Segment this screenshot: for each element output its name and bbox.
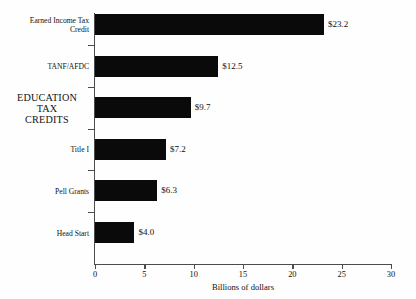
bar-row: Head Start$4.0 [0,222,416,264]
bar-row: Title I$7.2 [0,139,416,181]
x-axis-tick-label: 15 [228,270,258,279]
x-axis-tick [95,264,96,269]
y-axis-tick [88,212,94,213]
bar-value-label: $4.0 [138,222,154,243]
x-axis-tick-label: 25 [327,270,357,279]
x-axis-title: Billions of dollars [95,282,391,292]
x-axis-tick [342,264,343,269]
x-axis-tick-label: 5 [129,270,159,279]
x-axis-tick-label: 10 [179,270,209,279]
x-axis-tick [391,264,392,269]
bar-value-label: $23.2 [328,14,348,35]
bar [95,222,134,243]
category-label: TANF/AFDC [3,62,89,72]
bar [95,139,166,160]
bar [95,97,191,118]
y-axis-tick [88,87,94,88]
category-label: Head Start [3,229,89,239]
bar-value-label: $9.7 [195,97,211,118]
x-axis-tick [292,264,293,269]
bar [95,14,324,35]
bar-row: Pell Grants$6.3 [0,180,416,222]
x-axis-tick-label: 0 [80,270,110,279]
bar-chart: Earned Income Tax Credit$23.2TANF/AFDC$1… [0,0,416,299]
bar [95,180,157,201]
category-label: Title I [3,145,89,155]
x-axis-tick [243,264,244,269]
category-label: EDUCATION TAX CREDITS [1,92,93,126]
y-axis-tick [88,129,94,130]
y-axis-tick [88,170,94,171]
bar-value-label: $6.3 [161,180,177,201]
x-axis-tick [144,264,145,269]
bar [95,56,218,77]
bar-row: Earned Income Tax Credit$23.2 [0,14,416,56]
y-axis-tick [88,45,94,46]
x-axis-tick-label: 30 [376,270,406,279]
x-axis-tick-label: 20 [277,270,307,279]
bar-row: EDUCATION TAX CREDITS$9.7 [0,97,416,139]
category-label: Pell Grants [3,187,89,197]
bar-value-label: $12.5 [222,56,242,77]
bar-value-label: $7.2 [170,139,186,160]
x-axis-tick [194,264,195,269]
category-label: Earned Income Tax Credit [3,16,89,35]
